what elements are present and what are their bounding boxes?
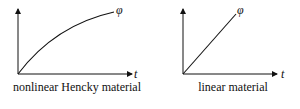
phi-label: φ: [116, 3, 123, 18]
phi-label: φ: [237, 3, 244, 18]
caption-nonlinear: nonlinear Hencky material: [12, 80, 142, 95]
linear-line: [183, 14, 236, 74]
nonlinear-plot: [18, 9, 132, 74]
caption-linear: linear material: [183, 80, 283, 95]
linear-plot: [183, 9, 277, 74]
nonlinear-curve: [18, 12, 114, 74]
